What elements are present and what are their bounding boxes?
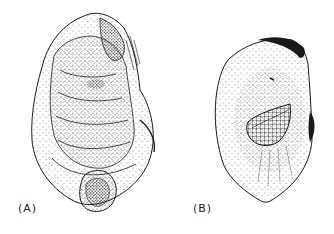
panel-b-shell-interior <box>215 37 314 202</box>
panel-b-label: (B) <box>193 202 212 215</box>
oyster-illustration <box>0 0 334 234</box>
panel-a-label: (A) <box>18 202 37 215</box>
panel-a-shell-exterior <box>32 13 155 211</box>
